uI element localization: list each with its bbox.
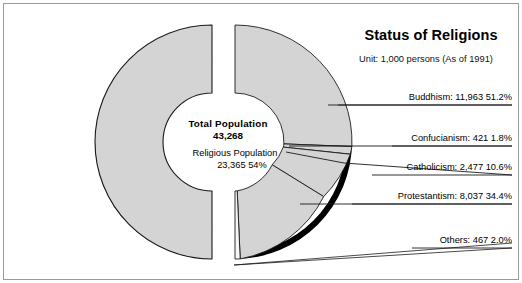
legend-item-catholicism: Catholicism: 2,477 10.6% <box>330 162 512 172</box>
legend-item-confucianism: Confucianism: 421 1.8% <box>330 133 512 143</box>
page-title: Status of Religions <box>352 27 510 43</box>
chart-figure: Status of Religions Unit: 1,000 persons … <box>0 0 522 283</box>
unit-note: Unit: 1,000 persons (As of 1991) <box>340 54 512 64</box>
legend-item-others: Others: 467 2.0% <box>330 235 512 245</box>
legend-item-buddhism: Buddhism: 11,963 51.2% <box>330 92 512 102</box>
total-population-label: Total Population <box>160 118 296 129</box>
religious-population-value: 23,365 54% <box>188 160 296 170</box>
legend-item-protestantism: Protestantism: 8,037 34.4% <box>330 191 512 201</box>
total-population-value: 43,268 <box>160 130 296 141</box>
donut-center-text: Total Population 43,268 Religious Popula… <box>160 118 296 170</box>
religious-population-label: Religious Population <box>174 148 296 158</box>
label-underlines <box>338 105 512 248</box>
